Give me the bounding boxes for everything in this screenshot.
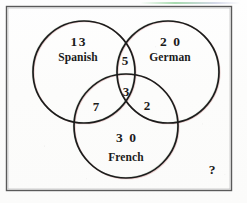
region-count-german-french: 2 [144, 99, 151, 112]
region-count-spanish-french: 7 [93, 100, 100, 113]
region-count-all-three: 3 [123, 85, 130, 98]
region-count-french-only: 3 0 [114, 131, 137, 145]
set-label-french: French [108, 152, 144, 164]
venn-diagram-figure: 13 2 0 3 0 5 7 2 3 Spanish German French… [0, 0, 247, 203]
region-count-german-only: 2 0 [158, 35, 181, 49]
unknown-count-question-mark: ? [209, 163, 216, 177]
region-count-spanish-only: 13 [69, 35, 87, 49]
region-count-spanish-german: 5 [122, 54, 129, 67]
set-label-spanish: Spanish [58, 52, 98, 64]
set-label-german: German [149, 52, 190, 64]
